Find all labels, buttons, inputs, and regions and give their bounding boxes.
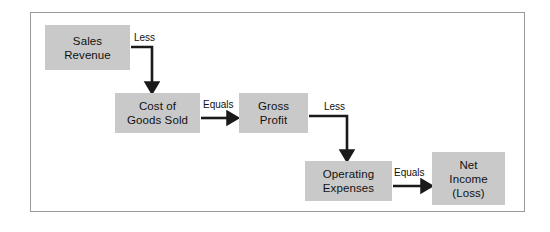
node-sales-revenue: Sales Revenue (45, 25, 130, 70)
node-net-income: Net Income (Loss) (432, 152, 505, 205)
node-cost-of-goods-sold-line-1: Cost of (139, 99, 176, 113)
node-net-income-line-3: (Loss) (452, 186, 485, 200)
edge-label-opex-to-net-income: Equals (394, 167, 425, 178)
node-sales-revenue-line-1: Sales (73, 34, 102, 48)
diagram-canvas: Sales Revenue Cost of Goods Sold Gross P… (0, 0, 550, 232)
edge-label-sales-to-cogs: Less (134, 32, 155, 43)
node-gross-profit-line-1: Gross (258, 99, 289, 113)
node-operating-expenses-line-1: Operating (323, 167, 374, 181)
node-cost-of-goods-sold-line-2: Goods Sold (127, 113, 188, 127)
edge-label-cogs-to-gross-profit: Equals (203, 99, 234, 110)
node-gross-profit: Gross Profit (239, 93, 308, 133)
node-cost-of-goods-sold: Cost of Goods Sold (115, 93, 200, 133)
node-net-income-line-2: Income (449, 172, 487, 186)
node-operating-expenses-line-2: Expenses (323, 181, 374, 195)
node-operating-expenses: Operating Expenses (305, 161, 392, 201)
node-gross-profit-line-2: Profit (260, 113, 287, 127)
edge-label-gross-profit-to-opex: Less (324, 101, 345, 112)
node-sales-revenue-line-2: Revenue (64, 48, 111, 62)
node-net-income-line-1: Net (459, 158, 477, 172)
